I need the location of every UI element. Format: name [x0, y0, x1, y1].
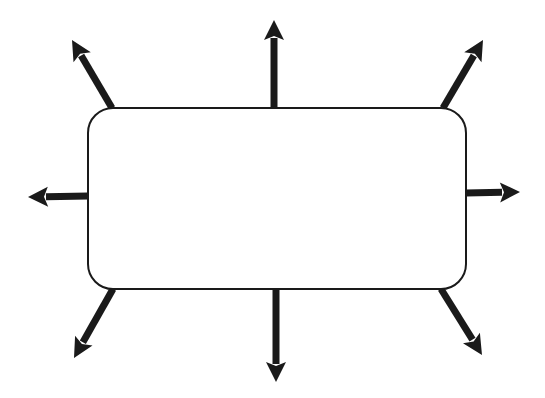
arrow-bottom-right [441, 289, 482, 355]
arrow-shaft [441, 289, 473, 340]
arrow-head-icon [28, 187, 48, 207]
arrow-shaft [443, 56, 474, 108]
arrow-head-icon [266, 362, 286, 382]
arrow-top [264, 20, 284, 108]
arrow-head-icon [500, 182, 520, 202]
arrow-top-left [72, 40, 112, 108]
arrow-shaft [83, 289, 113, 342]
center-box [88, 108, 466, 289]
arrow-bottom-left [74, 289, 113, 358]
arrow-shaft [46, 196, 88, 197]
arrow-right [466, 182, 520, 202]
arrow-left [28, 187, 88, 207]
arrow-shaft [466, 192, 502, 193]
arrow-bottom [266, 289, 286, 382]
arrow-top-right [443, 40, 483, 108]
arrow-head-icon [264, 20, 284, 40]
brainstorm-diagram [0, 0, 545, 398]
arrow-shaft [81, 56, 112, 108]
